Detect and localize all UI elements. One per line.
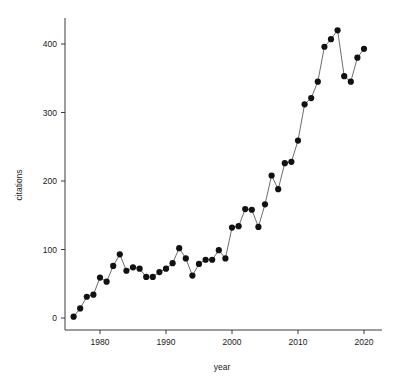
data-point [203, 257, 209, 263]
data-point [77, 305, 83, 311]
data-point [236, 223, 242, 229]
data-point [110, 263, 116, 269]
data-point [242, 206, 248, 212]
y-axis-title: citations [14, 169, 24, 200]
data-point [176, 245, 182, 251]
data-point [130, 264, 136, 270]
data-point [84, 294, 90, 300]
series-line-citations [74, 30, 364, 316]
data-point [163, 266, 169, 272]
y-tick-label: 300 [43, 108, 57, 118]
data-point [328, 36, 334, 42]
data-point [269, 172, 275, 178]
data-point [262, 201, 268, 207]
data-point [321, 44, 327, 50]
data-point [348, 79, 354, 85]
data-point [156, 269, 162, 275]
data-point [71, 314, 77, 320]
data-point [183, 255, 189, 261]
x-tick-label: 2000 [223, 337, 242, 347]
data-point [354, 55, 360, 61]
series-markers-citations [71, 27, 368, 320]
y-tick-label: 400 [43, 39, 57, 49]
data-point [361, 46, 367, 52]
data-point [275, 186, 281, 192]
data-point [209, 257, 215, 263]
data-point [308, 95, 314, 101]
axes [65, 18, 382, 330]
y-axis-ticks: 0100200300400 [43, 39, 65, 323]
data-point [229, 224, 235, 230]
x-axis-title: year [214, 362, 231, 372]
data-point [249, 207, 255, 213]
data-point [137, 266, 143, 272]
y-tick-label: 200 [43, 176, 57, 186]
data-point [90, 292, 96, 298]
y-tick-label: 0 [52, 313, 57, 323]
data-point [123, 268, 129, 274]
data-point [341, 73, 347, 79]
x-tick-label: 1980 [91, 337, 110, 347]
data-point [196, 261, 202, 267]
data-series-citations [71, 27, 368, 320]
data-point [255, 224, 261, 230]
data-point [302, 101, 308, 107]
data-point [282, 160, 288, 166]
data-point [295, 137, 301, 143]
data-point [97, 274, 103, 280]
x-tick-label: 1990 [157, 337, 176, 347]
data-point [189, 272, 195, 278]
x-tick-label: 2010 [289, 337, 308, 347]
data-point [288, 159, 294, 165]
data-point [117, 251, 123, 257]
x-axis-ticks: 19801990200020102020 [91, 330, 374, 347]
x-tick-label: 2020 [355, 337, 374, 347]
data-point [104, 279, 110, 285]
data-point [222, 255, 228, 261]
data-point [315, 79, 321, 85]
data-point [216, 247, 222, 253]
citations-line-chart: 0100200300400 19801990200020102020 year … [0, 0, 394, 388]
data-point [143, 274, 149, 280]
y-tick-label: 100 [43, 245, 57, 255]
plot-area: 0100200300400 19801990200020102020 year … [0, 0, 394, 388]
data-point [170, 260, 176, 266]
data-point [150, 274, 156, 280]
data-point [335, 27, 341, 33]
